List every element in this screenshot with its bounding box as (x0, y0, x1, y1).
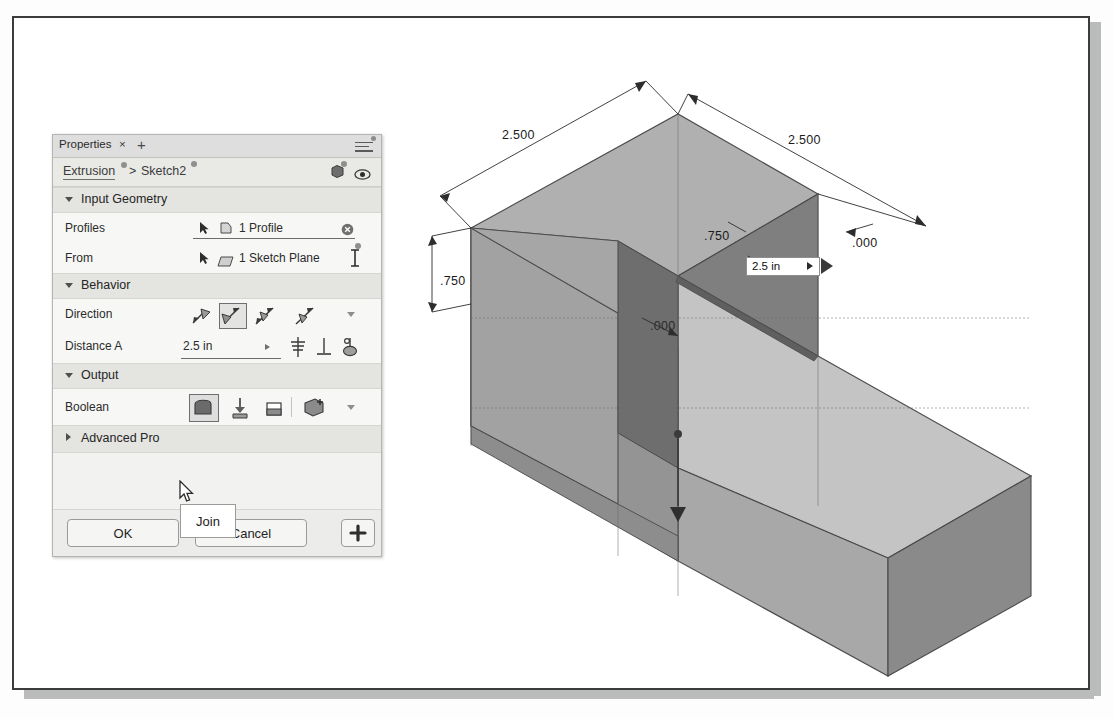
play-arrow-icon[interactable] (807, 262, 813, 270)
i-beam-icon[interactable] (349, 248, 361, 272)
boolean-option-new-body[interactable] (303, 397, 327, 423)
row-value-from: 1 Sketch Plane (239, 251, 320, 265)
breadcrumb-item-extrusion[interactable]: Extrusion (63, 164, 115, 180)
distance-a-value[interactable]: 2.5 in (183, 339, 212, 353)
dimension-label-right-offset[interactable]: .000 (852, 236, 878, 250)
row-label-distance-a: Distance A (65, 339, 122, 353)
section-header-behavior[interactable]: Behavior (53, 273, 381, 299)
arrow-select-icon[interactable] (199, 221, 210, 239)
dimension-label-top-left-width[interactable]: 2.500 (502, 128, 535, 142)
chevron-right-icon (66, 433, 71, 441)
chevron-down-icon[interactable] (347, 312, 355, 317)
canvas-distance-value: 2.5 in (752, 260, 780, 272)
section-label-advanced-properties: Advanced Pro (81, 431, 160, 445)
extent-to-icon[interactable] (341, 336, 359, 362)
scanned-page: 2.500 2.500 .750 .750 .000 .000 2.5 in P… (0, 0, 1113, 719)
direction-option-two-side-selected[interactable] (219, 303, 247, 329)
row-direction: Direction (53, 299, 381, 331)
ok-button[interactable]: OK (67, 519, 179, 547)
chevron-down-icon (65, 197, 73, 202)
section-header-input-geometry[interactable]: Input Geometry (53, 187, 381, 213)
row-value-profiles: 1 Profile (239, 221, 283, 235)
row-boolean: Boolean (53, 389, 381, 425)
section-label-behavior: Behavior (81, 278, 130, 292)
chevron-right-icon[interactable] (265, 344, 270, 350)
dimension-label-left-depth[interactable]: .750 (440, 274, 466, 288)
section-header-advanced-properties[interactable]: Advanced Pro (53, 425, 381, 453)
dimension-label-center-offset[interactable]: .000 (650, 319, 676, 333)
hamburger-menu-icon[interactable] (355, 139, 375, 153)
eye-icon[interactable] (354, 166, 371, 177)
row-from: From 1 Sketch Plane (53, 243, 381, 273)
section-header-output[interactable]: Output (53, 363, 381, 389)
row-distance-a: Distance A 2.5 in (53, 331, 381, 363)
section-label-output: Output (81, 368, 119, 382)
dimension-label-top-right-width[interactable]: 2.500 (788, 133, 821, 147)
row-label-boolean: Boolean (65, 400, 109, 414)
distance-a-underline (181, 358, 281, 359)
measure-icon[interactable] (315, 336, 333, 362)
mouse-cursor-icon (178, 480, 196, 508)
section-label-input-geometry: Input Geometry (81, 192, 167, 206)
boolean-option-join-selected[interactable] (189, 394, 219, 422)
boolean-divider (291, 397, 292, 417)
breadcrumb-dot-3 (341, 161, 347, 167)
direction-option-asymmetric[interactable] (293, 305, 317, 327)
taper-angle-icon[interactable] (289, 336, 307, 362)
add-tab-icon[interactable]: + (137, 136, 146, 153)
profiles-field-underline (193, 238, 355, 239)
dimension-label-right-depth[interactable]: .750 (704, 229, 730, 243)
row-label-profiles: Profiles (65, 221, 105, 235)
row-label-from: From (65, 251, 93, 265)
drag-arrow-icon[interactable] (821, 258, 833, 274)
plus-icon (349, 524, 367, 542)
profile-icon (219, 221, 233, 239)
row-label-direction: Direction (65, 307, 112, 321)
direction-option-symmetric[interactable] (253, 305, 277, 327)
breadcrumb-dot-1 (121, 162, 127, 168)
from-modified-dot (355, 243, 361, 249)
tab-properties[interactable]: Properties (59, 138, 111, 150)
chevron-down-icon (65, 373, 73, 378)
solid-body (471, 114, 1031, 676)
boolean-option-cut[interactable] (229, 396, 251, 424)
tooltip-join: Join (180, 504, 236, 538)
direction-option-one-side[interactable] (189, 305, 213, 327)
breadcrumb-item-sketch2[interactable]: Sketch2 (141, 164, 186, 178)
breadcrumb-dot-2 (191, 161, 197, 167)
breadcrumb: Extrusion > Sketch2 (53, 158, 381, 187)
plane-icon (217, 253, 234, 271)
boolean-option-intersect[interactable] (263, 398, 285, 422)
panel-tab-bar: Properties × + (53, 135, 381, 158)
chevron-down-icon (65, 283, 73, 288)
application-window-frame: 2.500 2.500 .750 .750 .000 .000 2.5 in P… (12, 16, 1090, 690)
breadcrumb-separator: > (129, 164, 136, 178)
close-icon[interactable]: × (119, 138, 126, 150)
properties-panel[interactable]: Properties × + Extrusion > Sketch2 (52, 134, 382, 557)
add-feature-button[interactable] (341, 519, 375, 547)
arrow-select-icon[interactable] (199, 251, 210, 269)
row-profiles: Profiles 1 Profile (53, 213, 381, 243)
chevron-down-icon[interactable] (347, 405, 355, 410)
canvas-distance-input[interactable]: 2.5 in (746, 257, 820, 276)
